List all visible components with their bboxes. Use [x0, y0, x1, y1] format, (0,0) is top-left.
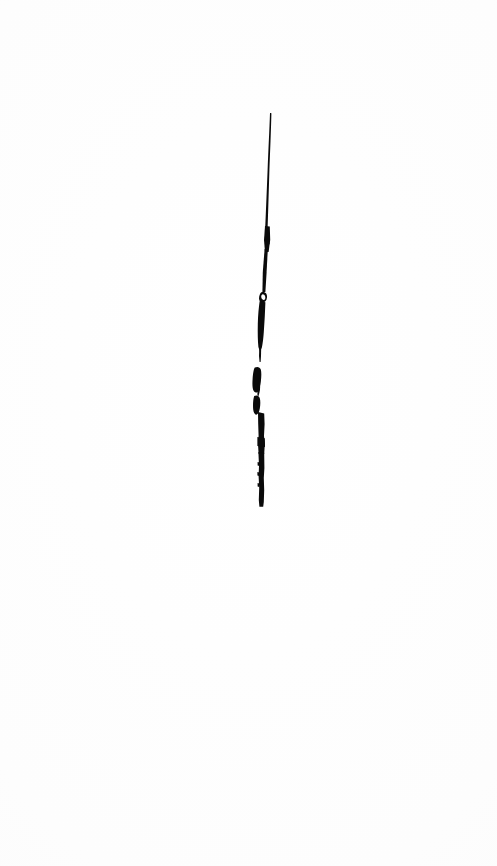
- ink-segment-upper-taper: [265, 113, 271, 246]
- ink-segment-terminus: [258, 452, 264, 507]
- ink-segment-lower-notch: [257, 437, 265, 447]
- ink-segment-blob-lower: [253, 395, 260, 414]
- ink-segment-hairline-tail: [259, 346, 261, 362]
- ink-segment-notch: [264, 226, 270, 252]
- ink-segment-lower-shaft: [258, 412, 265, 454]
- ink-stroke-layer: [0, 0, 497, 866]
- artwork-canvas: [0, 0, 497, 866]
- ink-segment-upper-body: [262, 249, 267, 292]
- ink-segment-mid-bulge: [258, 301, 266, 352]
- ink-stroke-svg: [0, 0, 497, 866]
